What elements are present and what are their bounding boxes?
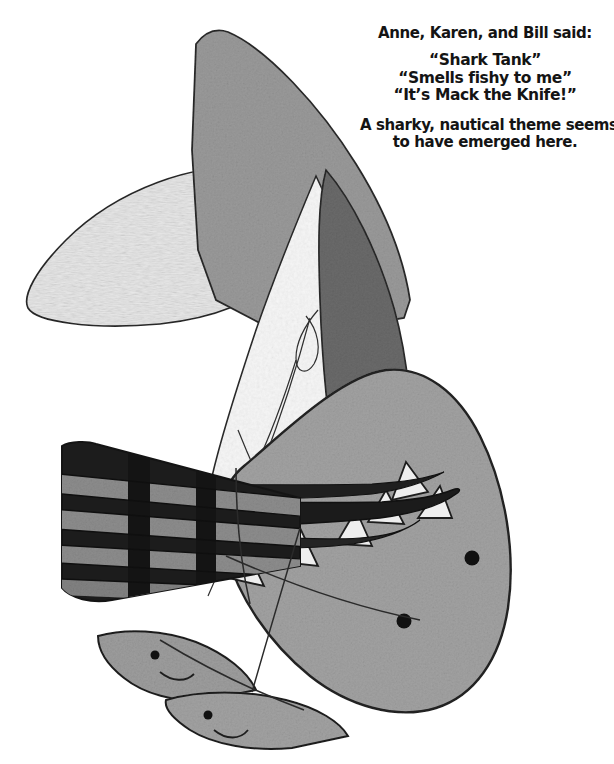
caption-quote-2: “Smells fishy to me” [360, 71, 610, 87]
caption-summary-1: A sharky, nautical theme seems [360, 118, 610, 133]
caption-block: Anne, Karen, and Bill said: “Shark Tank”… [360, 26, 610, 152]
eye-upper [465, 551, 480, 566]
small-eye-lower [204, 711, 213, 720]
small-shark-head-upper [98, 631, 256, 700]
page-root: Anne, Karen, and Bill said: “Shark Tank”… [0, 0, 614, 764]
small-shark-head-lower [166, 693, 348, 750]
caption-summary-2: to have emerged here. [360, 135, 610, 150]
caption-quote-1: “Shark Tank” [360, 53, 610, 69]
caption-quote-3: “It’s Mack the Knife!” [360, 88, 610, 104]
caption-heading: Anne, Karen, and Bill said: [360, 26, 610, 41]
small-eye-upper [151, 651, 160, 660]
